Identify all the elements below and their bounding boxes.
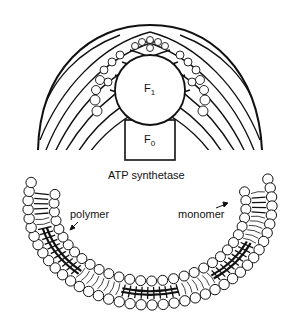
f1-label: F1 — [144, 82, 155, 94]
monomer-arrow-head — [223, 202, 228, 207]
vesicle-diagram — [0, 0, 297, 322]
f0-label: F0 — [144, 133, 155, 145]
monomer-label: monomer — [178, 208, 224, 220]
polymer-label: polymer — [70, 208, 109, 220]
atp-synthetase-label: ATP synthetase — [108, 169, 185, 181]
